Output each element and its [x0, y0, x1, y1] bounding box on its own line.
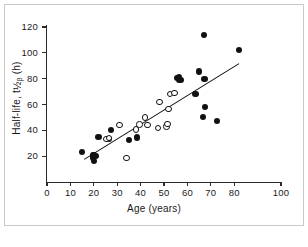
- data-point-filled: [93, 153, 99, 159]
- data-point-filled: [200, 114, 206, 120]
- data-point-filled: [134, 134, 140, 140]
- x-tick: [117, 182, 118, 186]
- data-point-filled: [214, 118, 220, 124]
- x-tick-label: 80: [219, 188, 249, 198]
- x-tick: [187, 182, 188, 186]
- x-tick: [163, 182, 164, 186]
- data-point-open: [123, 155, 129, 161]
- x-tick-label: 100: [266, 188, 296, 198]
- y-tick: [42, 26, 46, 27]
- data-point-filled: [178, 77, 184, 83]
- data-point-open: [164, 121, 170, 127]
- x-tick: [210, 182, 211, 186]
- data-point-filled: [202, 104, 208, 110]
- y-tick: [42, 104, 46, 105]
- data-point-filled: [201, 76, 207, 82]
- figure-container: 20406080100120 01020304050607080100 Age …: [0, 0, 308, 247]
- data-point-filled: [196, 68, 202, 74]
- x-tick: [140, 182, 141, 186]
- x-tick: [280, 182, 281, 186]
- data-point-filled: [95, 134, 101, 140]
- data-point-open: [156, 99, 162, 105]
- x-tick: [46, 182, 47, 186]
- regression-line: [84, 63, 239, 159]
- y-tick: [42, 52, 46, 53]
- x-tick: [234, 182, 235, 186]
- data-point-open: [116, 122, 122, 128]
- data-point-filled: [108, 127, 114, 133]
- y-axis-title-fraction: ½: [12, 82, 23, 91]
- y-tick: [42, 156, 46, 157]
- data-point-filled: [192, 91, 198, 97]
- data-point-filled: [126, 137, 132, 143]
- y-tick: [42, 78, 46, 79]
- x-tick: [93, 182, 94, 186]
- data-point-filled: [236, 47, 242, 53]
- data-point-filled: [79, 149, 85, 155]
- y-axis-title-unit: (h): [11, 61, 22, 74]
- data-point-open: [144, 122, 150, 128]
- data-point-open: [155, 125, 161, 131]
- data-point-open: [136, 121, 142, 127]
- plot-area: [47, 27, 281, 182]
- y-tick: [42, 130, 46, 131]
- y-axis-title-subscript: β: [16, 77, 23, 81]
- y-axis-title: Half-life, t½β (h): [11, 23, 23, 173]
- data-point-filled: [201, 32, 207, 38]
- y-axis-title-main: Half-life, t: [11, 90, 22, 135]
- x-tick: [70, 182, 71, 186]
- data-point-open: [171, 90, 177, 96]
- data-point-open: [165, 106, 171, 112]
- data-point-open: [142, 114, 148, 120]
- x-axis-title: Age (years): [0, 203, 308, 214]
